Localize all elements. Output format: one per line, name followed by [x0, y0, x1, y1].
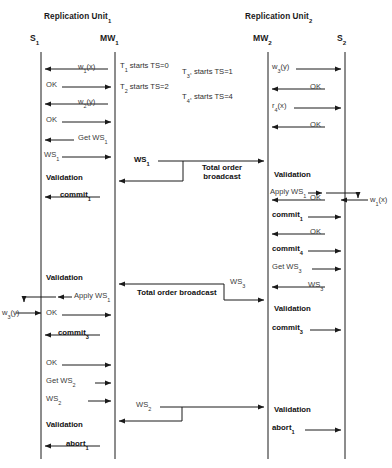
validation-label-4: Validation: [274, 305, 311, 313]
message-label-commit1-left: commit1: [60, 191, 91, 199]
timestamp-t2: T2 starts TS=2: [120, 83, 169, 91]
broadcast-ws1-label: WS1: [134, 156, 150, 164]
message-label-commit3-right: commit3: [272, 324, 303, 332]
validation-label-1: Validation: [46, 174, 83, 182]
external-op-w3y: w3(y): [2, 309, 19, 317]
apply-ws1-left-hook: [16, 297, 72, 313]
validation-label-2: Validation: [274, 171, 311, 179]
message-label-get-ws1: Get WS1: [78, 134, 108, 142]
apply-ws1-label-left: Apply WS1: [74, 292, 110, 300]
message-label-ws3-right: WS3: [308, 281, 323, 289]
broadcast-ws3-label: WS3: [230, 278, 245, 286]
message-label-ok-1: OK: [46, 81, 57, 89]
broadcast-ws2-connector: [119, 407, 264, 421]
lifeline-header-s1: S1: [30, 34, 39, 43]
validation-label-3: Validation: [46, 274, 83, 282]
message-label-commit4-right: commit4: [272, 245, 303, 253]
message-label-ok-r2: OK: [310, 121, 321, 129]
apply-ws1-label-right: Apply WS1: [270, 188, 306, 196]
timestamp-t3: T3, starts TS=1: [182, 68, 233, 76]
message-label-ok-4: OK: [46, 359, 57, 367]
lifeline-header-mw2: MW2: [253, 34, 272, 43]
message-label-abort1-left: abort1: [66, 440, 89, 448]
message-label-ok-2: OK: [46, 116, 57, 124]
unit-header-2: Replication Unit2: [245, 13, 312, 21]
message-arrows-left: [45, 69, 111, 446]
lifeline-header-mw1: MW1: [100, 34, 119, 43]
message-label-commit1-right: commit1: [272, 211, 303, 219]
timestamp-t4: T4, starts TS=4: [182, 93, 233, 101]
lifeline-header-s2: S2: [337, 34, 346, 43]
sequence-diagram-canvas: Replication Unit1 Replication Unit2 S1 M…: [0, 0, 392, 468]
message-label-ok-r4: OK: [310, 228, 321, 236]
message-label-w2y: w2(y): [78, 98, 95, 106]
broadcast-ws2-label: WS2: [136, 401, 151, 409]
message-label-r4x: r4(x): [272, 102, 286, 110]
validation-label-6: Validation: [46, 421, 83, 429]
unit-header-1: Replication Unit1: [44, 13, 111, 21]
timestamp-t1: T1 starts TS=0: [120, 62, 169, 70]
message-label-ok-3: OK: [46, 309, 57, 317]
message-label-commit3-left: commit3: [58, 329, 89, 337]
external-op-w1x: w1(x): [370, 196, 387, 204]
message-label-ok-r1: OK: [310, 83, 321, 91]
broadcast-ws1-caption: Total orderbroadcast: [186, 163, 258, 181]
message-label-w3y: w3(y): [272, 63, 289, 71]
broadcast-ws3-caption: Total order broadcast: [137, 288, 217, 297]
message-label-get-ws2: Get WS2: [46, 377, 76, 385]
message-label-w1x: w1(x): [78, 63, 95, 71]
message-label-ok-r3: OK: [310, 194, 321, 202]
validation-label-5: Validation: [274, 406, 311, 414]
message-label-abort1-right: abort1: [272, 424, 295, 432]
message-label-ws1-left: WS1: [44, 151, 59, 159]
message-label-ws2-left: WS2: [46, 395, 61, 403]
message-label-get-ws3: Get WS3: [272, 263, 302, 271]
